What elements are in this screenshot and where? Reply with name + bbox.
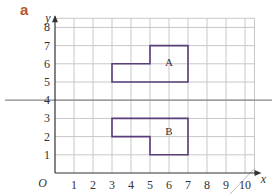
x-tick-label: 5 [147,178,153,192]
x-tick-label: 8 [204,178,210,192]
y-tick-label: 2 [44,130,50,144]
x-tick-label: 6 [166,178,172,192]
x-tick-label: 1 [71,178,77,192]
axes [52,15,262,176]
x-tick-label: 9 [223,178,229,192]
y-tick-label: 3 [44,111,50,125]
y-tick-label: 4 [44,93,50,107]
origin-label: O [38,176,47,190]
grid-lines [55,18,255,173]
y-tick-label: 7 [44,39,50,53]
x-axis-label: x [260,172,267,186]
coordinate-grid-diagram: 1234567891012345678Oyx AB [0,0,272,194]
x-tick-label: 2 [90,178,96,192]
x-tick-label: 4 [128,178,134,192]
x-tick-label: 7 [185,178,191,192]
y-axis-label: y [44,11,51,25]
shape-label-a: A [165,56,173,68]
shape-label-b: B [165,125,172,137]
x-tick-label: 10 [239,178,251,192]
x-tick-label: 3 [109,178,115,192]
y-tick-label: 1 [44,148,50,162]
y-tick-label: 5 [44,75,50,89]
y-tick-label: 6 [44,57,50,71]
tick-labels: 1234567891012345678Oyx [38,11,267,192]
